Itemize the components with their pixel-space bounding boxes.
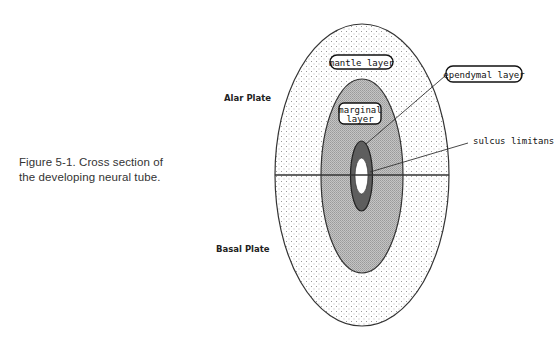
mantle-layer-label: mantle layer — [329, 55, 395, 69]
central-lumen — [355, 158, 368, 194]
neural-tube-diagram: mantle layer marginal layer ependymal la… — [0, 0, 560, 343]
svg-text:ependymal layer: ependymal layer — [443, 70, 525, 80]
marginal-layer-label: marginal layer — [338, 103, 381, 124]
alar-plate-label: Alar Plate — [224, 93, 271, 103]
ependymal-layer-label: ependymal layer — [443, 66, 525, 82]
basal-plate-label: Basal Plate — [216, 244, 270, 254]
sulcus-limitans-label: sulcus limitans — [473, 136, 554, 146]
svg-text:mantle layer: mantle layer — [329, 58, 395, 68]
svg-text:layer: layer — [346, 114, 374, 124]
